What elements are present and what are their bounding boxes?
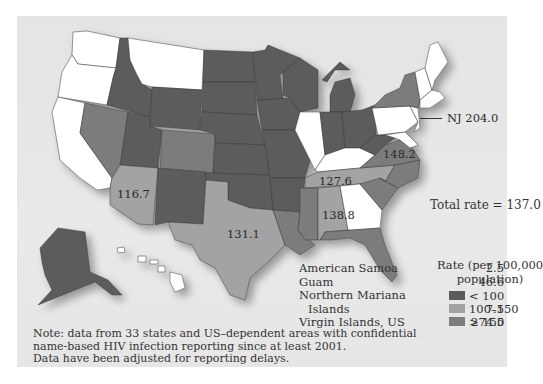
- state-ak: [38, 228, 122, 305]
- state-ms: [298, 188, 318, 240]
- label-al: 138.8: [322, 208, 355, 222]
- label-va: 148.2: [383, 147, 416, 161]
- state-ks: [213, 143, 270, 175]
- label-tn: 127.6: [319, 174, 352, 188]
- footnote: Note: data from 33 states and US–depende…: [33, 328, 417, 366]
- legend-swatch-icon: [449, 304, 465, 313]
- legend-swatch-icon: [449, 317, 465, 326]
- state-pa: [372, 106, 418, 135]
- legend-item-high: > 150: [449, 315, 543, 328]
- state-nd: [203, 50, 255, 82]
- legend-title: Rate (per 100,000 population): [430, 258, 543, 286]
- label-az: 116.7: [117, 187, 150, 201]
- state-ny: [372, 72, 420, 108]
- total-rate: Total rate = 137.0: [430, 198, 541, 212]
- legend-item-mid: 100–150: [449, 302, 543, 315]
- label-nj: NJ 204.0: [447, 111, 498, 125]
- state-mi: [322, 62, 355, 112]
- map-legend: Rate (per 100,000 population) < 100 100–…: [430, 258, 543, 328]
- legend-item-low: < 100: [449, 289, 543, 302]
- state-sd: [202, 82, 257, 115]
- nj-leader-line: [420, 118, 442, 119]
- state-hi: [117, 247, 185, 292]
- legend-swatch-icon: [449, 291, 465, 300]
- state-wy: [150, 87, 202, 130]
- state-wa: [72, 31, 120, 68]
- state-nm: [155, 168, 206, 225]
- label-tx: 131.1: [227, 227, 260, 241]
- state-co: [160, 130, 215, 173]
